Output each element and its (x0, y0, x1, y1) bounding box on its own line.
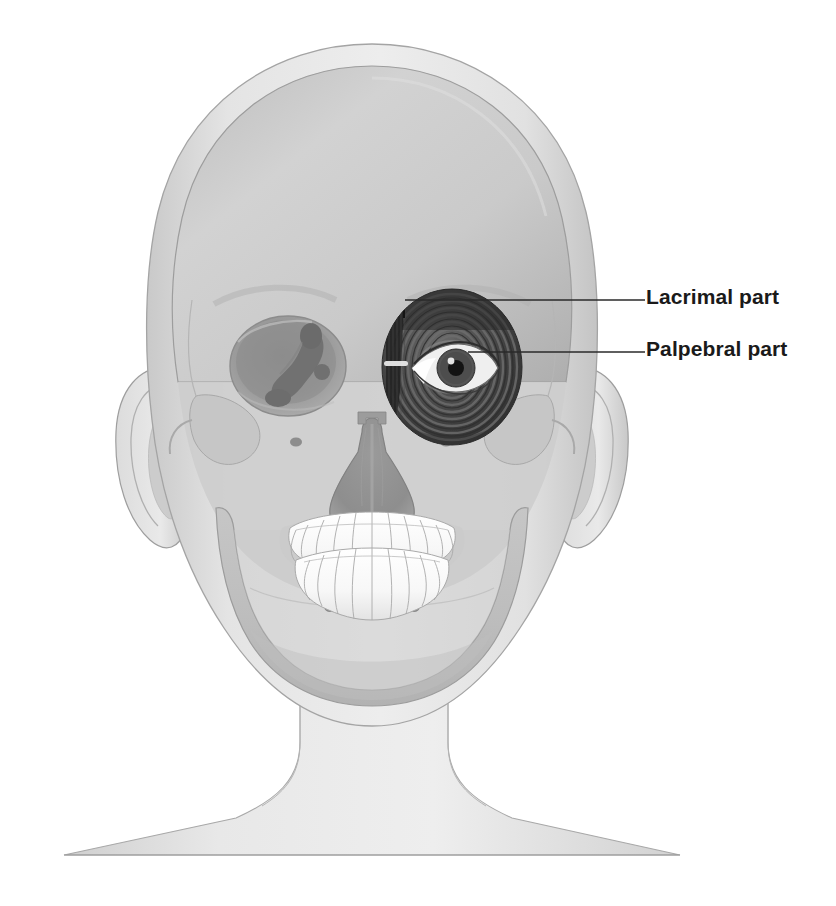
lacrimal-punctum (314, 364, 330, 380)
infraorbital-foramen-right (290, 438, 302, 447)
orbicularis-oculi-muscle (382, 287, 522, 446)
label-palpebral-part: Palpebral part (646, 337, 787, 361)
right-bony-orbit (230, 316, 346, 416)
head-anatomy-illustration (0, 0, 836, 906)
medial-canthus-highlight (384, 361, 408, 366)
anatomical-figure-plate: Lacrimal part Palpebral part (0, 0, 836, 906)
label-lacrimal-part: Lacrimal part (646, 285, 779, 309)
corneal-highlight (448, 358, 455, 365)
